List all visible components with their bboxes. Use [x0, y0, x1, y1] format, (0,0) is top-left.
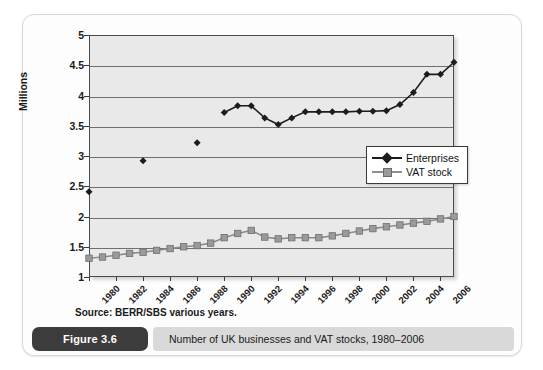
x-tick-label: 1990	[234, 283, 257, 306]
figure-card: Millions 54.543.532.521.51 1980198219841…	[22, 14, 522, 356]
y-tick-label: 1.5	[69, 241, 84, 253]
data-point-marker	[167, 245, 173, 251]
data-point-marker	[86, 255, 92, 261]
series-line	[224, 62, 454, 124]
data-point-marker	[153, 247, 159, 253]
x-tick-label: 1984	[153, 283, 176, 306]
x-tick-mark	[89, 277, 90, 281]
data-point-marker	[370, 225, 376, 231]
chart-legend: Enterprises VAT stock	[366, 146, 468, 184]
x-tick-mark	[224, 277, 225, 281]
data-point-marker	[275, 236, 281, 242]
data-point-marker	[288, 114, 295, 121]
data-point-marker	[451, 213, 457, 219]
data-point-marker	[86, 188, 93, 195]
x-tick-mark	[332, 277, 333, 281]
data-point-marker	[221, 109, 228, 116]
chart-area: Millions 54.543.532.521.51 1980198219841…	[23, 15, 523, 305]
data-point-marker	[140, 249, 146, 255]
data-point-marker	[262, 234, 268, 240]
x-tick-label: 2002	[397, 283, 420, 306]
data-point-marker	[194, 139, 201, 146]
y-axis-tick-labels: 54.543.532.521.51	[51, 35, 84, 277]
data-point-marker	[140, 157, 147, 164]
x-tick-label: 1986	[180, 283, 203, 306]
data-point-marker	[315, 108, 322, 115]
x-tick-mark	[359, 277, 360, 281]
x-tick-label: 2006	[451, 283, 474, 306]
data-point-marker	[302, 234, 308, 240]
data-point-marker	[437, 216, 443, 222]
x-tick-mark	[251, 277, 252, 281]
data-point-marker	[383, 224, 389, 230]
data-point-marker	[316, 234, 322, 240]
y-tick-mark	[84, 126, 89, 127]
x-tick-mark	[305, 277, 306, 281]
y-tick-mark	[84, 217, 89, 218]
data-point-marker	[221, 234, 227, 240]
data-point-marker	[342, 108, 349, 115]
y-tick-mark	[84, 35, 89, 36]
y-tick-label: 3.5	[69, 120, 84, 132]
figure-number-badge: Figure 3.6	[32, 327, 148, 351]
data-point-marker	[424, 218, 430, 224]
x-tick-mark	[197, 277, 198, 281]
data-point-marker	[275, 121, 282, 128]
data-point-marker	[343, 230, 349, 236]
x-tick-label: 1988	[207, 283, 230, 306]
x-tick-label: 2004	[424, 283, 447, 306]
x-tick-mark	[386, 277, 387, 281]
legend-item-enterprises: Enterprises	[372, 151, 459, 165]
data-point-marker	[248, 227, 254, 233]
data-point-marker	[99, 254, 105, 260]
data-point-marker	[194, 242, 200, 248]
data-point-marker	[356, 228, 362, 234]
data-point-marker	[289, 234, 295, 240]
data-point-marker	[234, 102, 241, 109]
data-point-marker	[113, 252, 119, 258]
x-tick-mark	[413, 277, 414, 281]
data-point-marker	[397, 222, 403, 228]
data-point-marker	[126, 250, 132, 256]
source-note: Source: BERR/SBS various years.	[75, 307, 237, 318]
x-tick-mark	[440, 277, 441, 281]
x-tick-mark	[170, 277, 171, 281]
y-tick-mark	[84, 156, 89, 157]
figure-caption-bar: Figure 3.6 Number of UK businesses and V…	[32, 327, 514, 351]
x-tick-label: 1982	[126, 283, 149, 306]
data-point-marker	[235, 230, 241, 236]
x-tick-label: 1992	[261, 283, 284, 306]
y-tick-label: 4.5	[69, 59, 84, 71]
x-tick-label: 1980	[99, 283, 122, 306]
y-tick-mark	[84, 277, 89, 278]
legend-label-vat-stock: VAT stock	[406, 166, 452, 178]
x-tick-label: 1998	[343, 283, 366, 306]
legend-item-vat-stock: VAT stock	[372, 165, 459, 179]
figure-caption-text: Number of UK businesses and VAT stocks, …	[153, 327, 514, 351]
y-tick-mark	[84, 96, 89, 97]
diamond-marker-icon	[372, 152, 402, 164]
legend-label-enterprises: Enterprises	[406, 152, 459, 164]
data-point-marker	[410, 220, 416, 226]
data-point-marker	[329, 233, 335, 239]
y-axis-title: Millions	[17, 72, 29, 111]
data-point-marker	[180, 244, 186, 250]
y-tick-mark	[84, 247, 89, 248]
data-point-marker	[383, 107, 390, 114]
y-tick-mark	[84, 186, 89, 187]
data-point-marker	[356, 108, 363, 115]
data-point-marker	[207, 240, 213, 246]
data-point-marker	[302, 108, 309, 115]
data-point-marker	[369, 108, 376, 115]
y-tick-mark	[84, 65, 89, 66]
x-tick-label: 1994	[288, 283, 311, 306]
x-tick-mark	[278, 277, 279, 281]
x-tick-label: 2000	[370, 283, 393, 306]
square-marker-icon	[372, 166, 402, 178]
x-tick-mark	[116, 277, 117, 281]
x-tick-mark	[143, 277, 144, 281]
y-tick-label: 2.5	[69, 180, 84, 192]
data-point-marker	[329, 108, 336, 115]
x-tick-label: 1996	[315, 283, 338, 306]
